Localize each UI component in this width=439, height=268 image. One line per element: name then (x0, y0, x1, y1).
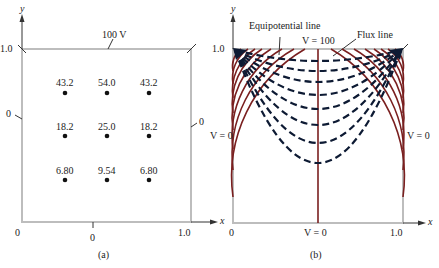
figure-a-bottom-boundary-label: 0 (90, 233, 95, 243)
figure-a-y-tick: 1.0 (0, 44, 13, 54)
grid-value: 18.2 (56, 122, 74, 132)
figure-b-y-tick: 1.0 (212, 44, 225, 54)
flux-lines (232, 49, 405, 223)
figure-a-y-axis-label: y (20, 4, 24, 14)
grid-value: 6.80 (140, 166, 158, 176)
figure-b-top-boundary-label: V = 100 (302, 36, 335, 46)
figure-a-top-boundary-label: 100 V (102, 30, 127, 40)
figure-a-origin-label: 0 (15, 228, 20, 238)
grid-value: 25.0 (98, 122, 116, 132)
grid-value: 54.0 (98, 78, 116, 88)
figure-b-bottom-boundary-label: V = 0 (304, 228, 327, 238)
grid-value: 43.2 (140, 78, 158, 88)
figure-a-caption: (a) (98, 250, 109, 260)
figure-b-x-tick: 1.0 (390, 228, 403, 238)
grid-value: 9.54 (98, 166, 116, 176)
figure-b-y-axis-label: y (231, 4, 235, 14)
grid-value: 6.80 (56, 166, 74, 176)
figure-b-origin-label: 0 (229, 228, 234, 238)
figure-b-left-boundary-label: V = 0 (210, 131, 233, 141)
figure-b-right-boundary-label: V = 0 (407, 131, 430, 141)
figure-a-x-axis-label: x (220, 216, 224, 226)
figure-a-left-boundary-label: 0 (6, 109, 11, 119)
figure-b-x-axis-label: x (428, 217, 432, 227)
equipotential-line-annotation: Equipotential line (249, 21, 320, 31)
grid-value: 18.2 (140, 122, 158, 132)
grid-value: 43.2 (56, 78, 74, 88)
flux-line-annotation: Flux line (357, 30, 393, 40)
figure-b-caption: (b) (310, 250, 322, 260)
figure-a-frame (15, 14, 218, 228)
figure-a-x-tick: 1.0 (178, 228, 191, 238)
figure-a-right-boundary-label: 0 (199, 117, 204, 127)
